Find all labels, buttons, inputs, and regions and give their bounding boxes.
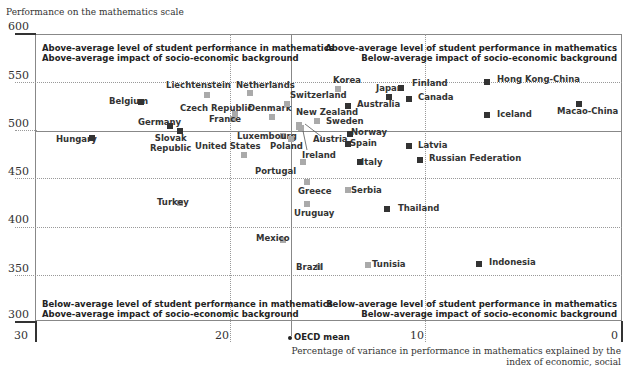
data-point-label: Iceland (497, 109, 532, 119)
data-point-label: United States (195, 141, 261, 151)
data-point-label: Greece (298, 186, 332, 196)
data-point-marker (284, 101, 290, 107)
data-point-label: Austria (313, 134, 348, 144)
data-point-label: Tunisia (372, 259, 406, 269)
data-point-label: Hungary (56, 134, 97, 144)
data-point-marker (345, 103, 351, 109)
data-point-label: Thailand (398, 203, 439, 213)
data-point-label: Liechtenstein (166, 80, 231, 90)
data-point-marker (304, 179, 310, 185)
data-point-marker (204, 92, 210, 98)
data-point-marker (484, 112, 490, 118)
data-point-label: Spain (350, 138, 377, 148)
data-point-label: Macao-China (557, 106, 618, 116)
data-point-label: Brazil (296, 262, 323, 272)
data-point-marker (314, 118, 320, 124)
data-point-label: Korea (333, 75, 361, 85)
data-point-label: Australia (357, 99, 400, 109)
data-point-marker (304, 201, 310, 207)
data-point-marker (241, 152, 247, 158)
data-point-marker (384, 206, 390, 212)
data-point-label: Norway (351, 127, 387, 137)
data-point-label: Italy (361, 157, 382, 167)
data-point-label: Canada (418, 92, 454, 102)
data-point-label: Uruguay (294, 208, 334, 218)
data-point-label: Russian Federation (429, 153, 521, 163)
x-axis-title: Percentage of variance in performance in… (281, 346, 621, 368)
data-point-label: Turkey (157, 197, 189, 207)
data-point-label: Indonesia (489, 257, 536, 267)
data-point-label: Serbia (351, 185, 382, 195)
data-point-marker (406, 143, 412, 149)
data-point-marker (247, 90, 253, 96)
data-point-label: France (209, 114, 241, 124)
data-point-label: SlovakRepublic (150, 133, 191, 153)
data-point-label: Finland (412, 78, 448, 88)
data-point-marker (406, 96, 412, 102)
data-point-label: Latvia (418, 140, 447, 150)
data-point-marker (335, 86, 341, 92)
data-point-label: Czech Republic (180, 103, 252, 113)
data-point-label: Belgium (109, 96, 148, 106)
data-point-marker (365, 262, 371, 268)
data-point-marker (417, 157, 423, 163)
data-point-marker (386, 94, 392, 100)
data-point-marker (298, 125, 304, 131)
data-point-label: Hong Kong-China (497, 74, 580, 84)
data-point-label: Poland (270, 141, 303, 151)
data-point-marker (300, 159, 306, 165)
data-point-marker (398, 85, 404, 91)
data-point-label: Portugal (255, 166, 296, 176)
data-point-label: Ireland (302, 150, 336, 160)
data-point-label: Sweden (326, 116, 364, 126)
data-point-marker (269, 114, 275, 120)
data-point-label: Germany (138, 117, 181, 127)
leader-lines (0, 0, 631, 370)
data-point-marker (476, 261, 482, 267)
data-point-label: Netherlands (236, 80, 295, 90)
data-point-marker (484, 79, 490, 85)
data-point-label: Mexico (256, 233, 290, 243)
